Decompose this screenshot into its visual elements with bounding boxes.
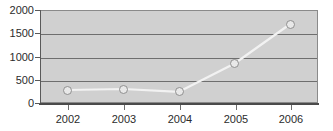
data-point-marker	[119, 85, 128, 94]
data-point-marker	[286, 20, 295, 29]
data-point-marker	[175, 87, 184, 96]
line-chart: 2000 1500 1000 500 0 2002 2003 2004 2005…	[0, 0, 333, 131]
series-line	[0, 0, 333, 131]
data-point-marker	[63, 86, 72, 95]
